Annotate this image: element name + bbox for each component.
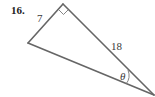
triangle-diagram: 16. 7 18 θ bbox=[0, 0, 155, 97]
hypotenuse bbox=[28, 43, 154, 95]
angle-label-theta: θ bbox=[120, 70, 126, 82]
side-label-7: 7 bbox=[37, 12, 43, 24]
angle-arc bbox=[126, 70, 129, 84]
triangle-figure: 16. 7 18 θ bbox=[0, 0, 155, 97]
side-label-18: 18 bbox=[111, 40, 123, 52]
long-leg bbox=[63, 4, 154, 95]
short-leg bbox=[28, 4, 63, 43]
problem-number: 16. bbox=[11, 4, 25, 16]
right-angle-marker bbox=[59, 10, 69, 15]
